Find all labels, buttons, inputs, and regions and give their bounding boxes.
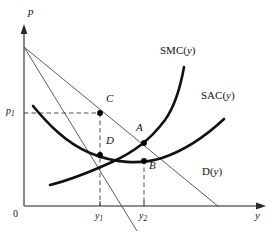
point-label-B: B: [149, 160, 156, 171]
diagram-canvas: [0, 0, 272, 239]
tick-label-y2: y2: [139, 211, 147, 223]
point-marker-A: [141, 140, 147, 146]
point-marker-B: [141, 158, 147, 164]
y-axis-arrowhead: [21, 24, 28, 34]
x-axis-label: y: [255, 210, 260, 221]
tick-label-y1: y1: [95, 211, 103, 223]
curve-label-smc-suffix: ): [192, 44, 196, 56]
curve-label-demand-prefix: D(: [202, 165, 214, 177]
point-label-C: C: [106, 93, 113, 104]
curve-label-smc: SMC(y): [160, 45, 195, 56]
guide-line-group: [24, 113, 144, 206]
point-marker-D: [97, 152, 103, 158]
tick-label-y1-sub: 1: [99, 215, 103, 223]
marginal-revenue-line: [24, 47, 137, 231]
curve-label-sac-prefix: SAC(: [201, 89, 226, 101]
curve-label-smc-prefix: SMC(: [160, 44, 187, 56]
curve-label-demand-suffix: ): [219, 165, 223, 177]
curve-label-demand: D(y): [202, 166, 222, 177]
axis-group: [21, 24, 266, 209]
point-marker-C: [97, 110, 103, 116]
point-label-A: A: [136, 122, 143, 133]
cost-curve-group: [33, 67, 224, 185]
tick-label-y2-sub: 2: [143, 215, 147, 223]
economics-diagram: p y 0 p1 y1 y2 SMC(y) SAC(y) D(y) A B C …: [0, 0, 272, 239]
curve-label-sac-suffix: ): [231, 89, 235, 101]
tick-label-p1-sub: 1: [11, 110, 15, 118]
point-label-D: D: [106, 135, 114, 146]
y-axis-label: p: [28, 6, 34, 17]
origin-label: 0: [13, 209, 18, 219]
curve-label-sac: SAC(y): [201, 90, 235, 101]
thin-line-group: [24, 47, 219, 231]
tick-label-p1: p1: [6, 106, 15, 118]
